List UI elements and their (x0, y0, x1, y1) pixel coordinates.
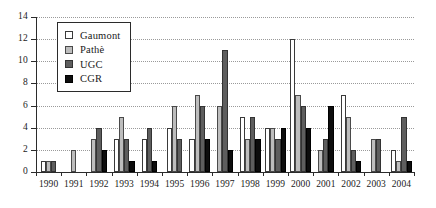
bar-group-2004 (389, 17, 414, 172)
x-axis-tickmark (414, 172, 415, 176)
y-axis-tick-label: 4 (0, 123, 28, 133)
bar-cgr-2002 (356, 161, 361, 172)
bar-cgr-1999 (281, 128, 286, 172)
x-axis-tick-label: 1996 (187, 178, 212, 198)
x-axis-tickmark (86, 172, 87, 176)
bar-group-1999 (263, 17, 288, 172)
x-axis-tickmarks (36, 172, 414, 177)
x-axis-tick-label: 1997 (212, 178, 237, 198)
x-axis-tick-label: 1998 (238, 178, 263, 198)
bar-cgr-1993 (129, 161, 134, 172)
y-axis-tick-label: 2 (0, 145, 28, 155)
bar-cgr-1992 (102, 150, 107, 172)
bar-pathe-1991 (71, 150, 76, 172)
y-axis-labels: 02468101214 (0, 0, 36, 190)
legend-swatch-icon-pathe (65, 46, 73, 54)
legend-swatch-icon-gaumont (65, 31, 73, 39)
legend-item-pathe: Pathè (65, 43, 120, 58)
x-axis-tickmark (263, 172, 264, 176)
x-axis-tick-label: 1992 (86, 178, 111, 198)
y-axis-tick-label: 14 (0, 12, 28, 22)
x-axis-tickmark (313, 172, 314, 176)
bar-group-1995 (162, 17, 187, 172)
x-axis-tickmark (212, 172, 213, 176)
x-axis-tick-label: 1994 (137, 178, 162, 198)
bar-chart: 02468101214 1990199119921993199419951996… (0, 0, 436, 208)
x-axis-tickmark (187, 172, 188, 176)
bar-group-2003 (364, 17, 389, 172)
legend-label: UGC (80, 59, 103, 70)
bar-group-1998 (238, 17, 263, 172)
bar-cgr-2000 (306, 128, 311, 172)
x-axis-tickmark (61, 172, 62, 176)
x-axis-labels: 1990199119921993199419951996199719981999… (36, 178, 414, 198)
x-axis-tick-label: 1995 (162, 178, 187, 198)
y-axis-tick-label: 10 (0, 56, 28, 66)
bar-cgr-2001 (328, 106, 333, 172)
legend-item-gaumont: Gaumont (65, 28, 120, 43)
bar-group-1997 (212, 17, 237, 172)
x-axis-tick-label: 1991 (61, 178, 86, 198)
x-axis-tickmark (389, 172, 390, 176)
legend-item-cgr: CGR (65, 72, 120, 87)
x-axis-tick-label: 2003 (364, 178, 389, 198)
x-axis-tickmark (288, 172, 289, 176)
legend-swatch-icon-cgr (65, 75, 73, 83)
x-axis-tick-label: 2004 (389, 178, 414, 198)
bar-group-1996 (187, 17, 212, 172)
bar-group-2001 (313, 17, 338, 172)
legend-label: CGR (80, 73, 102, 84)
x-axis-tickmark (338, 172, 339, 176)
bar-cgr-1997 (228, 150, 233, 172)
y-axis-tick-label: 12 (0, 34, 28, 44)
bar-cgr-1998 (255, 139, 260, 172)
bar-cgr-2004 (407, 161, 412, 172)
x-axis-tickmark (36, 172, 37, 176)
bar-cgr-1994 (152, 161, 157, 172)
x-axis-tick-label: 1993 (112, 178, 137, 198)
bar-ugc-1995 (177, 139, 182, 172)
x-axis-tick-label: 2000 (288, 178, 313, 198)
bar-group-1994 (137, 17, 162, 172)
legend-label: Gaumont (80, 30, 120, 41)
x-axis-tickmark (137, 172, 138, 176)
chart-legend: GaumontPathèUGCCGR (57, 22, 131, 92)
bar-cgr-1996 (205, 139, 210, 172)
legend-label: Pathè (80, 44, 104, 55)
bar-ugc-1990 (51, 161, 56, 172)
bar-group-2002 (338, 17, 363, 172)
legend-item-ugc: UGC (65, 57, 120, 72)
bar-ugc-2003 (376, 139, 381, 172)
x-axis-tickmark (364, 172, 365, 176)
y-axis-tick-label: 8 (0, 78, 28, 88)
x-axis-tickmark (238, 172, 239, 176)
y-axis-tick-label: 6 (0, 101, 28, 111)
x-axis-tick-label: 1990 (36, 178, 61, 198)
x-axis-tick-label: 2002 (338, 178, 363, 198)
bar-group-2000 (288, 17, 313, 172)
x-axis-tickmark (112, 172, 113, 176)
x-axis-tick-label: 1999 (263, 178, 288, 198)
legend-swatch-icon-ugc (65, 60, 73, 68)
y-axis-tick-label: 0 (0, 167, 28, 177)
x-axis-tick-label: 2001 (313, 178, 338, 198)
x-axis-tickmark (162, 172, 163, 176)
